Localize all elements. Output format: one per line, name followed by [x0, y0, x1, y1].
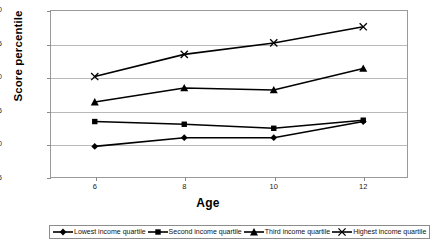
y-tick-mark	[47, 178, 51, 179]
data-point-diamond	[91, 143, 98, 150]
data-point-diamond	[181, 134, 188, 141]
data-point-square	[92, 119, 97, 124]
y-tick-label: 50	[0, 140, 2, 147]
data-point-square	[271, 126, 276, 131]
x-tick-label: 8	[169, 182, 199, 191]
legend-entry: Second income quartile	[147, 227, 243, 237]
legend-marker-triangle	[243, 227, 265, 237]
legend-entry: Highest income quartile	[331, 227, 427, 237]
y-tick-label: 60	[0, 73, 2, 80]
series-line	[95, 27, 364, 77]
series-x	[91, 23, 367, 80]
x-tick-label: 10	[259, 182, 289, 191]
series-line	[95, 120, 364, 128]
data-point-square	[182, 122, 187, 127]
series-triangle	[91, 64, 368, 105]
legend-entry: Lowest income quartile	[52, 227, 147, 237]
legend-label: Third income quartile	[265, 227, 331, 237]
data-point-square	[361, 118, 366, 123]
y-tick-label: 65	[0, 40, 2, 47]
legend-label: Highest income quartile	[353, 227, 427, 237]
y-axis-title: Score percentile	[12, 1, 24, 111]
y-tick-label: 70	[0, 6, 2, 13]
legend-entry: Third income quartile	[243, 227, 331, 237]
data-point-square	[155, 229, 160, 234]
series-line	[95, 122, 364, 147]
data-point-diamond	[60, 229, 67, 236]
legend-marker-x	[331, 227, 353, 237]
legend-marker-square	[147, 227, 169, 237]
series-line	[95, 68, 364, 102]
chart-legend: Lowest income quartileSecond income quar…	[49, 225, 430, 239]
data-point-diamond	[270, 134, 277, 141]
data-point-triangle	[359, 64, 367, 71]
legend-marker-diamond	[52, 227, 74, 237]
x-tick-label: 6	[80, 182, 110, 191]
y-tick-label: 45	[0, 174, 2, 181]
legend-label: Second income quartile	[169, 227, 243, 237]
y-tick-label: 55	[0, 107, 2, 114]
x-axis-title: Age	[0, 196, 416, 210]
series-layer	[50, 10, 408, 178]
x-tick-label: 12	[348, 182, 378, 191]
legend-label: Lowest income quartile	[74, 227, 147, 237]
